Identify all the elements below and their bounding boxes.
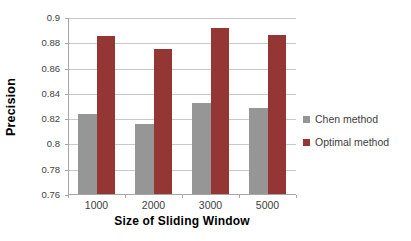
legend-label: Optimal method <box>315 136 389 148</box>
y-tick-label: 0.88 <box>42 38 61 48</box>
x-tick-label: 3000 <box>182 199 239 211</box>
bar-chen-method-2000 <box>135 124 154 194</box>
y-tick-label: 0.82 <box>42 114 61 124</box>
bar-optimal-method-1000 <box>97 36 116 194</box>
gridline <box>68 18 296 19</box>
y-tick-mark <box>65 43 68 44</box>
x-tick-mark <box>296 195 297 198</box>
y-tick-label: 0.76 <box>42 190 61 200</box>
x-tick-label: 2000 <box>125 199 182 211</box>
bar-chart: Precision 0.90.880.860.840.820.80.780.76… <box>0 0 411 241</box>
legend-label: Chen method <box>315 113 378 125</box>
y-tick-mark <box>65 69 68 70</box>
optimal-method-swatch-icon <box>303 139 310 146</box>
y-tick-mark <box>65 119 68 120</box>
x-tick-mark <box>182 195 183 198</box>
y-tick-mark <box>65 170 68 171</box>
legend-item-chen-method: Chen method <box>303 113 389 125</box>
y-axis-line <box>68 18 69 196</box>
x-tick-mark <box>125 195 126 198</box>
x-tick-mark <box>239 195 240 198</box>
chen-method-swatch-icon <box>303 116 310 123</box>
y-tick-mark <box>65 144 68 145</box>
legend-item-optimal-method: Optimal method <box>303 136 389 148</box>
bar-optimal-method-2000 <box>154 49 173 194</box>
y-tick-label: 0.86 <box>42 64 61 74</box>
y-tick-mark <box>65 18 68 19</box>
y-tick-mark <box>65 94 68 95</box>
y-axis-title: Precision <box>4 57 18 157</box>
y-tick-label: 0.8 <box>47 139 60 149</box>
bar-chen-method-5000 <box>249 108 268 194</box>
bar-optimal-method-3000 <box>211 28 230 194</box>
bar-chen-method-1000 <box>78 114 97 194</box>
y-tick-label: 0.9 <box>47 13 60 23</box>
x-tick-mark <box>68 195 69 198</box>
bar-optimal-method-5000 <box>268 35 287 194</box>
y-tick-label: 0.84 <box>42 89 61 99</box>
x-tick-label: 5000 <box>239 199 296 211</box>
x-axis-title: Size of Sliding Window <box>68 214 296 228</box>
legend: Chen method Optimal method <box>303 113 389 159</box>
x-tick-label: 1000 <box>68 199 125 211</box>
plot-area <box>68 18 296 195</box>
bar-chen-method-3000 <box>192 103 211 194</box>
y-tick-label: 0.78 <box>42 165 61 175</box>
